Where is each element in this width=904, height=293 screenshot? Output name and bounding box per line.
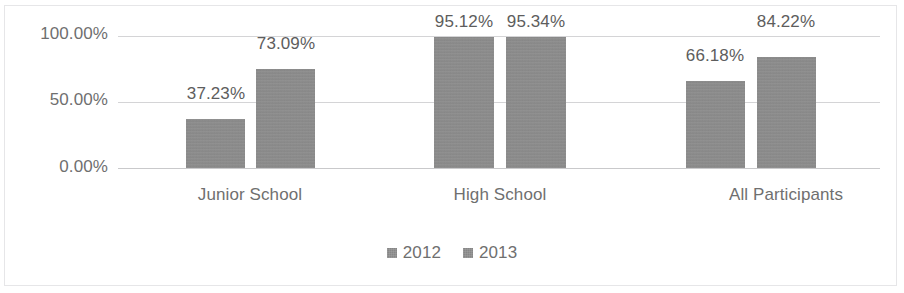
data-label-all-participants-2012: 66.18% (659, 46, 771, 66)
bar-all-participants-2013[interactable] (757, 57, 816, 168)
bar-junior-school-2012[interactable] (186, 119, 245, 168)
bar-chart: 100.00% 50.00% 0.00% 37.23% 73.09% Junio… (0, 0, 904, 293)
y-tick-label-100: 100.00% (0, 24, 108, 44)
data-label-junior-school-2012: 37.23% (160, 84, 272, 104)
axis-baseline (118, 168, 880, 169)
y-tick-label-50: 50.00% (0, 90, 108, 110)
y-tick-label-0: 0.00% (0, 157, 108, 177)
data-label-junior-school-2013: 73.09% (230, 34, 342, 54)
legend-label-2012: 2012 (403, 243, 441, 263)
x-category-label-junior-school: Junior School (150, 185, 350, 205)
legend-label-2013: 2013 (479, 243, 517, 263)
legend-swatch-icon-2012 (387, 248, 397, 258)
bar-high-school-2012[interactable] (434, 37, 494, 168)
data-label-high-school-2013: 95.34% (480, 12, 592, 32)
data-label-all-participants-2013: 84.22% (730, 12, 842, 32)
bar-high-school-2013[interactable] (506, 37, 566, 168)
legend-item-2012[interactable]: 2012 (387, 243, 441, 263)
bar-all-participants-2012[interactable] (686, 81, 745, 168)
chart-legend: 2012 2013 (0, 243, 904, 263)
legend-item-2013[interactable]: 2013 (463, 243, 517, 263)
x-category-label-high-school: High School (400, 185, 600, 205)
x-category-label-all-participants: All Participants (686, 185, 886, 205)
legend-swatch-icon-2013 (463, 248, 473, 258)
